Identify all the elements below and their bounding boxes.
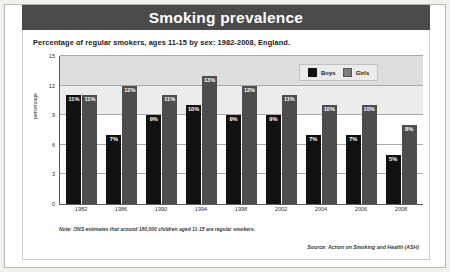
bar-value-label: 7% [106, 137, 121, 143]
bar-value-label: 11% [82, 97, 97, 103]
bar-value-label: 7% [306, 137, 321, 143]
bar-value-label: 13% [202, 78, 217, 84]
bar-boys-1982[interactable]: 11% [66, 95, 81, 204]
x-tick-label: 1994 [181, 206, 221, 212]
bar-value-label: 9% [266, 117, 281, 123]
bar-girls-2008[interactable]: 8% [402, 125, 417, 204]
bar-boys-2006[interactable]: 7% [346, 135, 361, 204]
chart-source: Source: Action on Smoking and Health (AS… [307, 244, 419, 250]
y-tick-label: 3 [52, 171, 55, 177]
bar-value-label: 7% [346, 137, 361, 143]
bar-boys-1986[interactable]: 7% [106, 135, 121, 204]
legend-label-boys: Boys [321, 70, 336, 76]
chart-card: Percentage of regular smokers, ages 11-1… [22, 30, 430, 260]
bar-boys-1994[interactable]: 10% [186, 105, 201, 204]
bar-value-label: 10% [362, 107, 377, 113]
legend-item-girls: Girls [343, 68, 370, 77]
bar-group: 5%8% [381, 56, 421, 204]
bar-girls-2004[interactable]: 10% [322, 105, 337, 204]
bar-value-label: 9% [146, 117, 161, 123]
bar-value-label: 5% [386, 157, 401, 163]
x-tick-label: 1986 [101, 206, 141, 212]
legend-item-boys: Boys [308, 68, 336, 77]
x-axis-labels: 198219861990199419982002200420062008 [59, 206, 423, 212]
y-axis-ticks: 03691215 [41, 56, 57, 204]
x-tick-label: 2006 [341, 206, 381, 212]
bar-value-label: 10% [322, 107, 337, 113]
y-tick-label: 12 [49, 83, 55, 89]
bar-value-label: 10% [186, 107, 201, 113]
y-axis-label: percentage [32, 107, 38, 119]
bar-boys-2002[interactable]: 9% [266, 115, 281, 204]
bar-boys-2008[interactable]: 5% [386, 155, 401, 204]
bar-group: 7%12% [102, 56, 142, 204]
bar-boys-2004[interactable]: 7% [306, 135, 321, 204]
y-tick-label: 15 [49, 53, 55, 59]
y-tick-label: 9 [52, 112, 55, 118]
legend-swatch-girls-icon [343, 68, 352, 77]
x-tick-label: 2004 [301, 206, 341, 212]
x-tick-label: 1990 [141, 206, 181, 212]
bar-girls-1982[interactable]: 11% [82, 95, 97, 204]
title-bar: Smoking prevalence [22, 5, 430, 30]
bar-value-label: 11% [282, 97, 297, 103]
x-tick-label: 1998 [221, 206, 261, 212]
bar-boys-1998[interactable]: 9% [226, 115, 241, 204]
page-title: Smoking prevalence [149, 10, 303, 26]
bar-girls-1986[interactable]: 12% [122, 86, 137, 204]
bar-value-label: 12% [242, 88, 257, 94]
bar-group: 9%11% [261, 56, 301, 204]
chart-note: Note: ONS estimates that around 180,000 … [59, 226, 255, 232]
chart-area: percentage 03691215 11%11%7%12%9%11%10%1… [31, 56, 423, 216]
x-tick-label: 2008 [381, 206, 421, 212]
bar-girls-2002[interactable]: 11% [282, 95, 297, 204]
y-tick-label: 6 [52, 142, 55, 148]
bar-group: 9%11% [142, 56, 182, 204]
bar-boys-1990[interactable]: 9% [146, 115, 161, 204]
legend-swatch-boys-icon [308, 68, 317, 77]
page-root: Smoking prevalence Percentage of regular… [0, 0, 450, 272]
bar-girls-1998[interactable]: 12% [242, 86, 257, 204]
chart-subtitle: Percentage of regular smokers, ages 11-1… [33, 38, 290, 47]
bar-value-label: 11% [66, 97, 81, 103]
bar-group: 10%13% [182, 56, 222, 204]
bar-value-label: 11% [162, 97, 177, 103]
bar-value-label: 9% [226, 117, 241, 123]
bar-value-label: 12% [122, 88, 137, 94]
bar-group: 9%12% [222, 56, 262, 204]
y-tick-label: 0 [52, 201, 55, 207]
bar-girls-1994[interactable]: 13% [202, 76, 217, 204]
x-tick-label: 2002 [261, 206, 301, 212]
bar-girls-1990[interactable]: 11% [162, 95, 177, 204]
chart-legend: Boys Girls [299, 64, 378, 81]
bar-group: 11%11% [62, 56, 102, 204]
legend-label-girls: Girls [356, 70, 370, 76]
x-tick-label: 1982 [61, 206, 101, 212]
bar-girls-2006[interactable]: 10% [362, 105, 377, 204]
bar-value-label: 8% [402, 127, 417, 133]
